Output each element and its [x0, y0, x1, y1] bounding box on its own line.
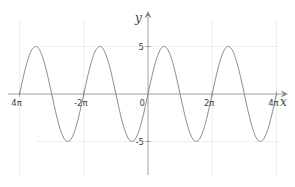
x-tick-label: 4π: [268, 98, 279, 108]
grid: [20, 20, 278, 175]
x-tick-label: 4π: [11, 98, 22, 108]
y-tick-label: 5: [139, 42, 144, 52]
x-tick-label: -2π: [74, 98, 88, 108]
x-tick-label: 2π: [204, 98, 215, 108]
y-axis-arrow: [145, 11, 152, 18]
origin-label: 0: [140, 98, 145, 108]
y-tick-label: -5: [136, 137, 144, 147]
x-axis-label: x: [280, 95, 287, 109]
y-axis-label: y: [134, 11, 142, 25]
sine-chart: 4π-2π2π4π5-5 x y 0: [0, 0, 295, 187]
